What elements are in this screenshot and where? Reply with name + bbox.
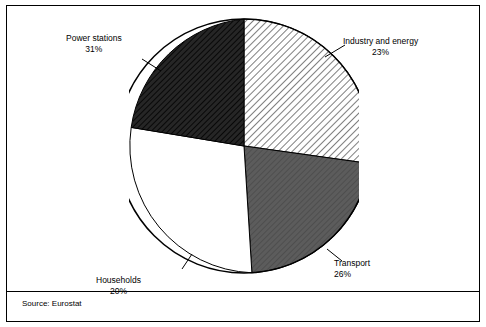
slice-label-transport-text: Transport	[334, 258, 370, 268]
slice-label-households: Households 20%	[96, 275, 141, 297]
slice-label-power-text: Power stations	[66, 33, 122, 43]
pie-slice-industry-and-energy	[244, 19, 359, 164]
slice-label-households-text: Households	[96, 275, 141, 285]
pie-slice-power-stations	[131, 19, 244, 146]
source-note: Source: Eurostat	[22, 299, 82, 308]
slice-label-industry-percent: 23%	[343, 47, 418, 58]
slice-label-transport: Transport 26%	[334, 258, 370, 280]
slice-label-power-percent: 31%	[66, 44, 122, 55]
pie-slice-transport	[244, 146, 359, 273]
pie-svg	[129, 17, 359, 275]
pie-chart	[129, 17, 359, 275]
slice-label-industry-text: Industry and energy	[343, 36, 418, 46]
slice-label-industry-and-energy: Industry and energy 23%	[343, 36, 418, 58]
slice-label-power-stations: Power stations 31%	[66, 33, 122, 55]
chart-figure: Industry and energy 23% Transport 26% Ho…	[0, 0, 486, 327]
slice-label-transport-percent: 26%	[334, 269, 370, 280]
pie-slice-households	[130, 127, 252, 272]
source-divider	[7, 291, 479, 292]
